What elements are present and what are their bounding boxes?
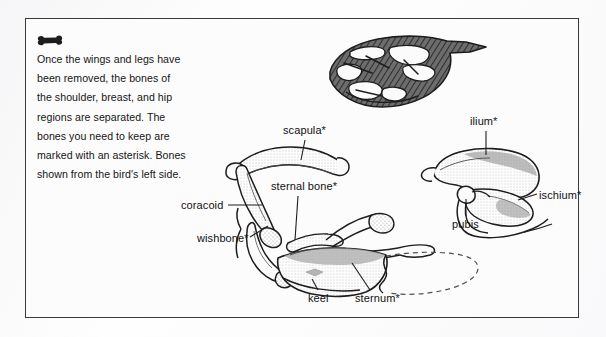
- label-coracoid: coracoid: [181, 199, 223, 211]
- bone-icon: [37, 34, 63, 47]
- caption-line: marked with an asterisk. Bones: [37, 146, 215, 165]
- caption-line: the shoulder, breast, and hip: [37, 88, 215, 107]
- caption-block: Once the wings and legs have been remove…: [37, 34, 215, 184]
- label-ilium: ilium*: [470, 115, 498, 127]
- caption-line: been removed, the bones of: [37, 69, 215, 88]
- caption-line: Once the wings and legs have: [37, 50, 215, 69]
- label-pubis: pubis: [452, 218, 479, 230]
- label-wishbone: wishbone*: [197, 232, 249, 244]
- label-scapula: scapula*: [283, 124, 326, 136]
- caption-line: bones you need to keep are: [37, 127, 215, 146]
- figure-page: Once the wings and legs have been remove…: [0, 0, 606, 337]
- label-sternal-bone: sternal bone*: [271, 180, 337, 192]
- caption-line: shown from the bird's left side.: [37, 165, 215, 184]
- label-sternum: sternum*: [355, 292, 400, 304]
- label-keel: keel: [308, 292, 329, 304]
- label-ischium: ischium*: [539, 189, 581, 201]
- caption-line: regions are separated. The: [37, 108, 215, 127]
